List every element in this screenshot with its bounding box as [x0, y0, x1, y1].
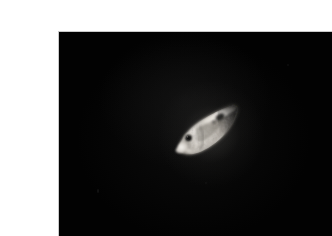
- particle-speck-icon: [97, 189, 99, 193]
- fish-eye: [184, 133, 193, 142]
- fish-tail-fade: [217, 102, 247, 138]
- fish-subject: [173, 96, 247, 170]
- photo-background: [59, 32, 332, 236]
- particle-speck-icon: [205, 182, 207, 184]
- photo-frame: [59, 32, 332, 236]
- particle-speck-icon: [287, 64, 289, 66]
- photograph-figure: [40, 16, 332, 236]
